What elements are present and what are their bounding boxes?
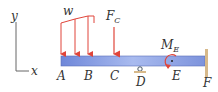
point-label-e: E [171, 69, 181, 83]
point-label-d: D [135, 75, 146, 89]
distributed-load [61, 16, 94, 54]
point-label-a: A [56, 69, 66, 83]
x-axis-label: x [31, 64, 38, 78]
wall-support-icon [205, 49, 208, 77]
point-label-c: C [110, 69, 119, 83]
coordinate-axes: y x [10, 9, 38, 78]
y-axis-label: y [10, 9, 18, 23]
distributed-load-label: w [63, 4, 74, 18]
pin-support-icon [134, 67, 146, 73]
point-label-b: B [83, 69, 93, 83]
beam [61, 56, 205, 66]
point-label-f: F [202, 76, 212, 90]
beam-diagram: y x w FC ME A B C D E F [0, 0, 218, 92]
moment-label: ME [160, 38, 179, 54]
force-label: FC [105, 9, 120, 25]
